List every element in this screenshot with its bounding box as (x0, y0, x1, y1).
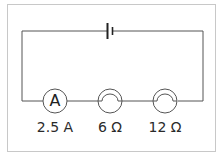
lamp-2-resistance: 12 Ω (135, 119, 195, 135)
lamp-icon (98, 89, 122, 113)
lamp-icon (153, 89, 177, 113)
ammeter-reading: 2.5 A (25, 119, 85, 135)
lamp-1-resistance: 6 Ω (80, 119, 140, 135)
ammeter-symbol: A (45, 91, 65, 110)
battery-icon (108, 23, 113, 39)
circuit-diagram (0, 0, 224, 159)
